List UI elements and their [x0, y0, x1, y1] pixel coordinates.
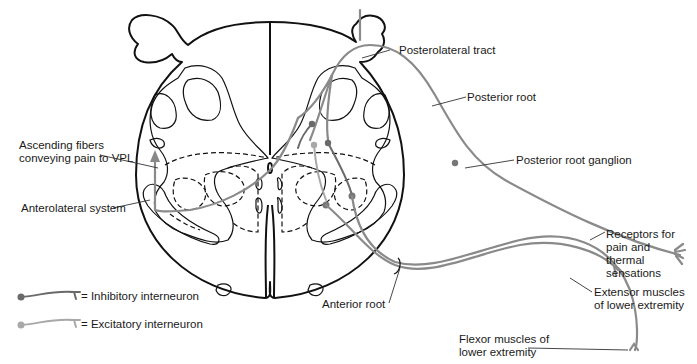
anterior-root-label: Anterior root [322, 298, 385, 311]
posterolateral-tract-label: Posterolateral tract [399, 44, 496, 57]
excitatory-neuron-symbol [18, 320, 81, 329]
legend-excitatory-label: = Excitatory interneuron [81, 318, 203, 331]
receptors-label: Receptors for pain and thermal sensation… [606, 228, 675, 280]
extensor-muscles-label: Extensor muscles of lower extremity [594, 286, 685, 312]
anterolateral-system-label: Anterolateral system [21, 202, 126, 215]
ascending-fibers-label: Ascending fibers conveying pain to VPL [19, 139, 133, 165]
legend-symbols [18, 292, 81, 329]
ascending-arrow [150, 150, 160, 162]
legend-inhibitory-label: = Inhibitory interneuron [81, 290, 199, 303]
ganglion-cell-body [452, 160, 458, 166]
flexor-muscles-label: Flexor muscles of lower extremity [459, 333, 549, 359]
grey-matter-right [272, 66, 397, 296]
inhibitory-neuron-symbol [18, 292, 81, 301]
posterior-root-ganglion-label: Posterior root ganglion [516, 154, 632, 167]
posterior-root-label: Posterior root [467, 91, 536, 104]
motor-efferents [323, 193, 639, 351]
grey-matter-left [143, 66, 268, 296]
